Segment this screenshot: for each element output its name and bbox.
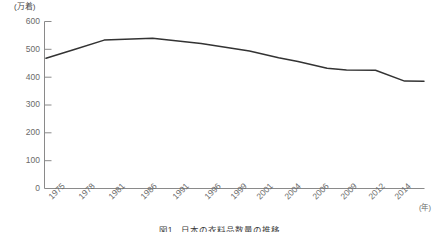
x-axis-unit-label: (年) <box>419 203 431 212</box>
y-tick-label-100: 100 <box>10 156 40 165</box>
y-tick-label-400: 400 <box>10 73 40 82</box>
figure-caption: 図1 日本の衣料品数量の推移 <box>0 225 439 232</box>
chart-figure: (万着) 600 500 400 300 200 100 0 1975 1978… <box>0 0 439 232</box>
y-axis-tick-marks <box>45 22 52 161</box>
axis-group <box>45 22 425 189</box>
y-tick-label-300: 300 <box>10 100 40 109</box>
data-series-group <box>46 38 424 81</box>
y-tick-label-0: 0 <box>10 184 40 193</box>
y-tick-label-200: 200 <box>10 128 40 137</box>
data-line-quantity <box>46 38 424 81</box>
y-tick-label-600: 600 <box>10 17 40 26</box>
y-tick-label-500: 500 <box>10 45 40 54</box>
